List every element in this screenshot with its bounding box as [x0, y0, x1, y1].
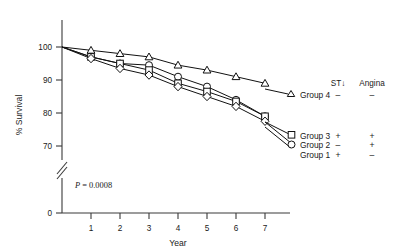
x-tick-label-7: 7 [263, 224, 268, 233]
series-group-4 [62, 46, 269, 86]
legend-angina-group-4: – [370, 90, 375, 100]
legend-st-group-2: – [336, 140, 341, 150]
legend-label-group-4: Group 4 [300, 90, 331, 100]
legend-row-group-1: Group 1 + – [300, 150, 375, 160]
legend-row-group-2: Group 2 – + [288, 140, 375, 150]
circle-marker [175, 73, 182, 80]
y-tick-label-100: 100 [38, 43, 52, 52]
survival-curve-figure: 100 90 80 70 0 1 2 3 4 5 6 7 Year % Surv… [0, 0, 397, 249]
x-tick-label-5: 5 [205, 224, 210, 233]
legend-label-group-2: Group 2 [300, 140, 331, 150]
x-axis-title: Year [169, 238, 187, 248]
legend-leader-lines [265, 89, 291, 148]
p-number: 0.0008 [89, 181, 112, 190]
legend-header-angina: Angina [359, 79, 385, 88]
p-equals: = [80, 181, 89, 190]
legend: ST↓ Angina Group 4 – – Group 3 + + Group… [287, 79, 385, 160]
circle-icon [288, 141, 295, 148]
y-tick-label-0: 0 [47, 209, 52, 218]
square-icon [288, 132, 295, 139]
p-value-annotation: P = 0.0008 [74, 181, 112, 190]
legend-angina-group-2: + [369, 140, 374, 150]
y-tick-label-80: 80 [43, 109, 53, 118]
legend-st-group-1: + [335, 150, 340, 160]
y-axis-title: % Survival [14, 95, 24, 136]
legend-angina-group-1: – [370, 150, 375, 160]
y-ticks [56, 47, 62, 213]
series-group-1 [62, 47, 269, 125]
legend-row-group-4: Group 4 – – [287, 90, 374, 100]
y-tick-label-90: 90 [43, 76, 53, 85]
x-tick-label-4: 4 [176, 224, 181, 233]
x-tick-label-6: 6 [234, 224, 239, 233]
x-ticks [91, 213, 265, 219]
x-tick-label-3: 3 [147, 224, 152, 233]
legend-header-st: ST↓ [331, 79, 346, 88]
legend-st-group-4: – [336, 90, 341, 100]
triangle-icon [287, 91, 294, 97]
x-tick-label-1: 1 [89, 224, 94, 233]
series-layer [62, 46, 269, 125]
legend-label-group-1: Group 1 [300, 150, 331, 160]
y-tick-label-70: 70 [43, 142, 53, 151]
chart-svg: 100 90 80 70 0 1 2 3 4 5 6 7 Year % Surv… [0, 0, 397, 249]
x-tick-label-2: 2 [118, 224, 123, 233]
